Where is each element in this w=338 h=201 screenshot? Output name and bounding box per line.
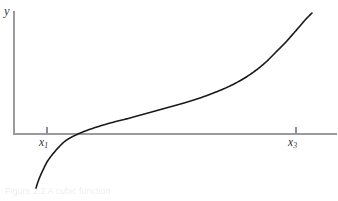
plot-canvas [0,0,338,201]
caption-remnant: Figure 2.2 A cubic function [5,186,185,198]
data-curve [36,13,312,188]
y-axis-label: y [4,5,10,18]
tick-label-x3-subscript: 3 [293,141,297,150]
tick-label-x1-subscript: 1 [44,141,48,150]
tick-label-x3: x3 [288,137,297,149]
figure-container: y x1 x3 Figure 2.2 A cubic function [0,0,338,201]
tick-label-x1: x1 [39,137,48,149]
